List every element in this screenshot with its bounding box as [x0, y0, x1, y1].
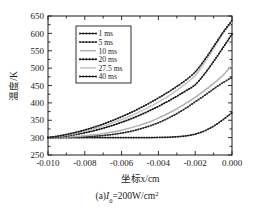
curve-marker [150, 109, 152, 111]
curve-marker [157, 122, 159, 124]
curve-marker [218, 53, 220, 55]
curve-marker [110, 137, 112, 139]
x-tick-label: -0.002 [184, 158, 207, 168]
curve-marker [103, 127, 105, 129]
curve-marker [215, 57, 217, 59]
curve-marker [190, 87, 192, 89]
curve-marker [185, 135, 187, 137]
legend-marker [92, 33, 94, 35]
curve-marker [189, 105, 191, 107]
curve-marker [196, 69, 198, 71]
curve-marker [97, 135, 99, 137]
curve-marker [223, 30, 225, 32]
curve-marker [120, 137, 122, 139]
curve-marker [220, 51, 222, 53]
curve-marker [183, 109, 185, 111]
curve-marker [131, 111, 133, 113]
curve-marker [161, 104, 163, 106]
curve-marker [90, 127, 92, 129]
curve-marker [193, 102, 195, 104]
curve-marker [159, 96, 161, 98]
y-tick-label: 450 [31, 81, 45, 91]
curve-marker [214, 43, 216, 45]
curve-marker [116, 123, 118, 125]
curve-marker [207, 128, 209, 130]
curve-marker [130, 118, 132, 120]
legend-marker [82, 41, 84, 43]
legend-marker [86, 41, 88, 43]
curve-marker [78, 131, 80, 133]
curve-marker [185, 79, 187, 81]
figure-container: 250300350400450500550600650 -0.010-0.008… [0, 0, 254, 215]
curve-marker [93, 126, 95, 128]
curve-marker [187, 135, 189, 137]
curve-marker [178, 112, 180, 114]
curve-marker [112, 119, 114, 121]
curve-marker [156, 137, 158, 139]
curve-marker [164, 119, 166, 121]
curve-marker [204, 94, 206, 96]
curve-marker [138, 129, 140, 131]
legend-marker [79, 76, 81, 78]
curve-marker [177, 136, 179, 138]
curve-marker [93, 130, 95, 132]
curve-marker [162, 137, 164, 139]
x-tick-label: -0.006 [110, 158, 134, 168]
curve-marker [216, 123, 218, 125]
curve-marker [172, 88, 174, 90]
curve-marker [219, 37, 221, 39]
curve-marker [201, 63, 203, 65]
curve-marker [231, 112, 233, 114]
curve-marker [133, 117, 135, 119]
curve-marker [214, 59, 216, 61]
curve-marker [80, 130, 82, 132]
curve-marker [184, 91, 186, 93]
curve-marker [152, 124, 154, 126]
curve-marker [130, 137, 132, 139]
curve-marker [107, 137, 109, 139]
curve-marker [110, 120, 112, 122]
curve-marker [225, 117, 227, 119]
curve-marker [162, 120, 164, 122]
curve-marker [128, 137, 130, 139]
legend-marker [95, 58, 97, 60]
curve-marker [117, 117, 119, 119]
curve-marker [173, 97, 175, 99]
curve-marker [214, 125, 216, 127]
y-tick-label: 600 [31, 29, 45, 39]
curve-marker [231, 33, 233, 35]
curve-marker [151, 137, 153, 139]
curve-marker [196, 82, 198, 84]
curve-marker [220, 35, 222, 37]
curve-marker [223, 81, 225, 83]
curve-marker [213, 45, 215, 47]
y-tick-label: 650 [31, 11, 45, 21]
curve-marker [138, 115, 140, 117]
curve-marker [57, 135, 59, 137]
curve-marker [231, 20, 233, 22]
curve-marker [180, 110, 182, 112]
curve-marker [187, 78, 189, 80]
curve-marker [106, 126, 108, 128]
curve-marker [227, 115, 229, 117]
curve-marker [188, 88, 190, 90]
curve-marker [91, 130, 93, 132]
curve-marker [225, 28, 227, 30]
curve-marker [224, 44, 226, 46]
curve-marker [191, 74, 193, 76]
curve-marker [209, 127, 211, 129]
legend-marker [86, 76, 88, 78]
curve-marker [97, 137, 99, 139]
curve-marker [112, 134, 114, 136]
curve-marker [212, 61, 214, 63]
curve-marker [125, 137, 127, 139]
legend-marker [95, 76, 97, 78]
curve-marker [140, 114, 142, 116]
curve-marker [154, 137, 156, 139]
curve-marker [228, 38, 230, 40]
caption-equals: =200W/cm [112, 191, 155, 201]
curve-marker [143, 137, 145, 139]
curve-marker [202, 131, 204, 133]
curve-marker [208, 91, 210, 93]
caption-superscript: 2 [155, 190, 158, 197]
